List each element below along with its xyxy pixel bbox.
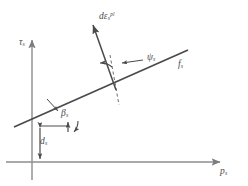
normal-reference-dashed-line — [110, 55, 119, 105]
dilation-angle-leader — [122, 60, 143, 63]
dilation-angle-arc — [100, 63, 112, 67]
friction-angle-arc — [74, 121, 78, 132]
dilation-angle-label: ψs — [147, 53, 155, 63]
yield-surface-label: fs — [178, 60, 183, 70]
plastic-strain-increment-arrow — [93, 25, 116, 90]
cohesion-label: ds — [40, 137, 47, 147]
plastic-strain-increment-label: dεspl — [99, 12, 114, 22]
friction-angle-label: βs — [61, 109, 68, 119]
yield-surface-figure: dεspl ψs fs τs βs ds ps — [0, 0, 248, 186]
vertical-axis-label: τs — [19, 38, 25, 48]
axis-group — [6, 40, 220, 180]
horizontal-axis-label: ps — [220, 167, 227, 177]
diagram-canvas — [0, 0, 248, 186]
yield-surface-line — [14, 50, 188, 127]
